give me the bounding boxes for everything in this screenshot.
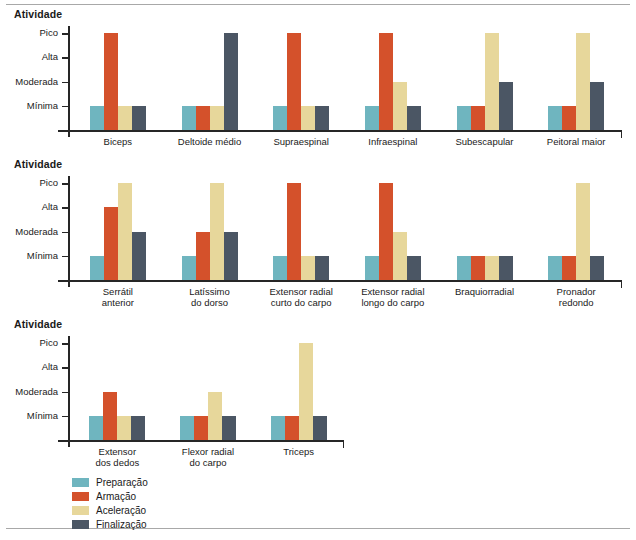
bar [104, 207, 118, 280]
bar-group [182, 23, 238, 130]
bar [287, 33, 301, 130]
bar [118, 183, 132, 280]
bar [576, 183, 590, 280]
bar [485, 256, 499, 280]
y-axis-line [68, 26, 70, 137]
bar [590, 256, 604, 280]
bar [104, 33, 118, 130]
bar [208, 392, 222, 441]
plot-area: PicoAltaModeradaMínimaSerrátil anteriorL… [0, 173, 636, 310]
bar-group [182, 173, 238, 280]
plot-area: PicoAltaModeradaMínimaExtensor dos dedos… [0, 333, 636, 470]
bar [90, 256, 104, 280]
bar [117, 416, 131, 440]
y-axis-tick-label: Mínima [27, 411, 58, 421]
bar [365, 256, 379, 280]
bar [118, 106, 132, 130]
x-axis-category-label: Extensor dos dedos [72, 446, 163, 468]
bar [379, 33, 393, 130]
bar [590, 82, 604, 131]
legend-item: Finalização [72, 518, 148, 531]
chart-panel-3: AtividadePicoAltaModeradaMínimaExtensor … [0, 318, 636, 470]
bar [365, 106, 379, 130]
y-axis-tick [62, 207, 68, 209]
bar-group [273, 173, 329, 280]
y-axis-tick-label: Alta [42, 52, 58, 62]
bar [299, 343, 313, 440]
bar [180, 416, 194, 440]
bar [562, 106, 576, 130]
legend-label: Preparação [96, 477, 148, 488]
y-axis-tick-label: Moderada [15, 387, 58, 397]
y-axis-tick-label: Pico [40, 338, 58, 348]
y-axis-tick-label: Moderada [15, 77, 58, 87]
bar [485, 33, 499, 130]
legend-swatch-3 [72, 506, 89, 515]
bar [562, 256, 576, 280]
x-axis-category-label: Supraespinal [255, 136, 347, 147]
y-axis-tick-label: Alta [42, 202, 58, 212]
bar [182, 256, 196, 280]
bar [196, 232, 210, 281]
y-axis-tick-label: Pico [40, 178, 58, 188]
y-axis-line [68, 336, 70, 447]
bar [379, 183, 393, 280]
bar [457, 106, 471, 130]
x-axis-category-label: Infraespinal [347, 136, 439, 147]
legend-swatch-4 [72, 520, 89, 529]
y-axis-tick [62, 33, 68, 35]
bar [548, 256, 562, 280]
top-divider [6, 4, 630, 5]
legend-swatch-1 [72, 478, 89, 487]
bar [457, 256, 471, 280]
bar [196, 106, 210, 130]
bar [273, 256, 287, 280]
bar [222, 416, 236, 440]
bar [315, 256, 329, 280]
chart-legend: PreparaçãoArmaçãoAceleraçãoFinalização [72, 476, 148, 532]
bar-group [548, 173, 604, 280]
plot-area: PicoAltaModeradaMínimaBicepsDeltoide méd… [0, 23, 636, 160]
legend-label: Finalização [96, 519, 147, 530]
y-axis-tick-label: Alta [42, 362, 58, 372]
axis-title: Atividade [14, 8, 636, 21]
bar-group [90, 173, 146, 280]
bar [194, 416, 208, 440]
bar [393, 82, 407, 131]
bar [407, 256, 421, 280]
bar [131, 416, 145, 440]
bar [301, 106, 315, 130]
bar-group [457, 173, 513, 280]
bar [393, 232, 407, 281]
y-axis-tick-label: Pico [40, 28, 58, 38]
bar [210, 106, 224, 130]
bar [224, 33, 238, 130]
bar [471, 106, 485, 130]
bar [182, 106, 196, 130]
x-axis-line [58, 130, 622, 132]
bar [90, 106, 104, 130]
x-axis-category-label: Biceps [72, 136, 164, 147]
bar [103, 392, 117, 441]
y-axis-tick-label: Mínima [27, 251, 58, 261]
y-axis-tick-label: Mínima [27, 101, 58, 111]
bar-group [365, 173, 421, 280]
x-axis-line [58, 440, 344, 442]
bar [499, 82, 513, 131]
bar [315, 106, 329, 130]
legend-swatch-2 [72, 492, 89, 501]
y-axis-tick [62, 57, 68, 59]
axis-title: Atividade [14, 318, 636, 331]
legend-item: Preparação [72, 476, 148, 489]
bar-group [89, 333, 145, 440]
bar [471, 256, 485, 280]
legend-item: Aceleração [72, 504, 148, 517]
x-axis-category-label: Serrátil anterior [72, 286, 164, 308]
x-axis-category-label: Pronador redondo [530, 286, 622, 308]
bar [499, 256, 513, 280]
bar [132, 106, 146, 130]
bar-group [273, 23, 329, 130]
bar-group [548, 23, 604, 130]
x-axis-category-label: Extensor radial longo do carpo [347, 286, 439, 308]
bar-group [271, 333, 327, 440]
